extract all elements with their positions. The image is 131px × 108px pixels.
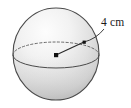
sphere-lower-shading [13,55,99,101]
center-dot [54,53,58,57]
sphere-diagram-canvas: 4 cm [0,0,131,108]
sphere-figure: 4 cm [0,0,131,108]
radius-label: 4 cm [101,16,124,28]
radius-endpoint-dot [83,41,86,44]
